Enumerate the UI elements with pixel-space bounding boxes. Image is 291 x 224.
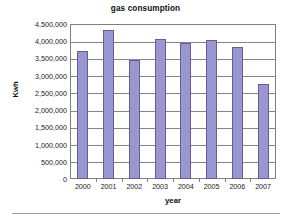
x-axis-tick-label-2001: 2001 [101, 182, 117, 191]
x-axis-title: year [70, 196, 276, 205]
y-axis-tick-label: 500,000 [3, 157, 67, 166]
gridline [71, 128, 275, 129]
y-axis-tick-label: 1,000,000 [3, 140, 67, 149]
chart-title: gas consumption [0, 4, 291, 13]
x-axis-tick-label-2007: 2007 [255, 182, 271, 191]
gridline [71, 145, 275, 146]
x-axis-tick-label-2006: 2006 [229, 182, 245, 191]
y-axis-tick-label: 2,500,000 [3, 88, 67, 97]
x-axis-tick-label-2003: 2003 [152, 182, 168, 191]
x-axis-tick-labels: 20002001200220032004200520062007 [70, 182, 276, 194]
gridline [71, 111, 275, 112]
gridline [71, 162, 275, 163]
y-axis-tick-label: 3,500,000 [3, 54, 67, 63]
y-axis-tick-label: 3,000,000 [3, 71, 67, 80]
gas-consumption-bar-chart: gas consumption Kwh 4,500,0004,000,0003,… [0, 0, 291, 224]
y-axis-tick-labels: 4,500,0004,000,0003,500,0003,000,0002,50… [0, 24, 67, 179]
y-axis-tick-label: 2,000,000 [3, 106, 67, 115]
y-axis-tick-label: 1,500,000 [3, 123, 67, 132]
gridline [71, 93, 275, 94]
y-axis-tick-label: 4,500,000 [3, 20, 67, 29]
x-axis-tick-label-2002: 2002 [126, 182, 142, 191]
plot-area [70, 24, 276, 179]
x-axis-tick-label-2004: 2004 [178, 182, 194, 191]
footer-divider [12, 213, 280, 214]
y-axis-tick-label: 4,000,000 [3, 37, 67, 46]
x-axis-tick-label-2005: 2005 [204, 182, 220, 191]
gridline [71, 76, 275, 77]
gridline [71, 42, 275, 43]
gridline [71, 59, 275, 60]
y-axis-tick-label: 0 [3, 175, 67, 184]
x-axis-tick-label-2000: 2000 [75, 182, 91, 191]
